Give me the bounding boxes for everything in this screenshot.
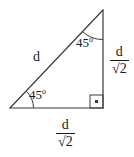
horizontal-leg-label: d √2: [56, 118, 75, 149]
hypotenuse-line: [10, 10, 103, 108]
vertical-leg-label: d √2: [110, 45, 129, 76]
hypotenuse-label: d: [33, 50, 40, 64]
triangle-diagram: d 45o 45o d √2 d √2: [0, 0, 134, 157]
angle-label-bottom-left: 45o: [29, 88, 46, 101]
angle-value-bottom-left: 45: [29, 87, 42, 102]
angle-value-top: 45: [76, 35, 89, 50]
horizontal-leg-numerator: d: [56, 118, 75, 133]
angle-label-top: 45o: [76, 36, 93, 49]
vertical-leg-denominator: √2: [110, 61, 129, 76]
degree-symbol-icon: o: [42, 87, 46, 96]
right-angle-dot-icon: [95, 100, 98, 103]
horizontal-leg-denominator: √2: [56, 134, 75, 149]
degree-symbol-icon: o: [89, 35, 93, 44]
vertical-leg-numerator: d: [110, 45, 129, 60]
